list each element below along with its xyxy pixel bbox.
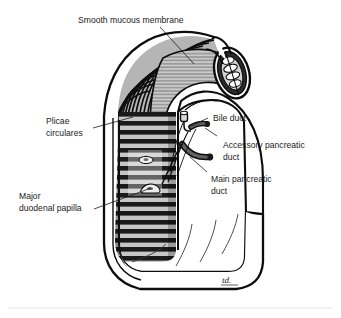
label-plicae-circulares-line2: circulares [46, 128, 83, 138]
label-accessory-pancreatic-duct-line1: Accessory pancreatic [223, 140, 305, 150]
label-bile-duct-line1: Bile duct [213, 113, 247, 123]
duodenum-figure: Smooth mucous membrane Plicae circulares… [0, 0, 341, 318]
label-main-pancreatic-duct-line1: Main pancreatic [211, 174, 272, 184]
artist-signature-text: td. [222, 275, 231, 285]
label-smooth-mucous-membrane: Smooth mucous membrane [78, 15, 184, 25]
minor-duodenal-papilla-bump [139, 156, 153, 163]
duodenum-illustration: Smooth mucous membrane Plicae circulares… [0, 0, 341, 318]
label-major-duodenal-papilla-line1: Major [19, 191, 41, 201]
label-bile-duct: Bile duct [213, 113, 247, 123]
label-accessory-pancreatic-duct-line2: duct [223, 152, 240, 162]
label-smooth-mucous-membrane-line1: Smooth mucous membrane [78, 15, 184, 25]
label-plicae-circulares-line1: Plicae [46, 116, 70, 126]
plicae-circulares-region [110, 108, 182, 268]
label-major-duodenal-papilla-line2: duodenal papilla [19, 203, 82, 213]
label-main-pancreatic-duct-line2: duct [211, 186, 228, 196]
